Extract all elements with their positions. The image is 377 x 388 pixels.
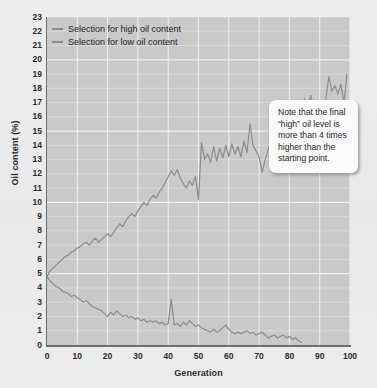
y-tick-label: 18 [18, 83, 42, 93]
x-tick-label: 90 [308, 351, 332, 361]
y-tick-label: 9 [18, 211, 42, 221]
x-axis-label: Generation [47, 368, 350, 378]
y-axis-label: Oil content (%) [10, 113, 20, 193]
x-tick-label: 80 [277, 351, 301, 361]
series-line-low [47, 277, 302, 343]
y-tick-label: 10 [18, 197, 42, 207]
y-tick-label: 20 [18, 54, 42, 64]
x-tick-label: 60 [217, 351, 241, 361]
y-tick-label: 8 [18, 225, 42, 235]
y-tick-label: 5 [18, 268, 42, 278]
y-tick-label: 3 [18, 297, 42, 307]
legend-item-low: Selection for low oil content [50, 35, 250, 48]
y-tick-label: 11 [18, 183, 42, 193]
x-tick-label: 40 [156, 351, 180, 361]
chart-figure: 01234567891011121314151617181920212223 0… [0, 0, 377, 388]
legend-label-low: Selection for low oil content [68, 37, 178, 47]
x-tick-label: 20 [96, 351, 120, 361]
x-tick-label: 100 [338, 351, 362, 361]
chart-legend: Selection for high oil content Selection… [50, 22, 250, 48]
y-tick-label: 2 [18, 311, 42, 321]
y-tick-label: 22 [18, 26, 42, 36]
y-tick-label: 13 [18, 154, 42, 164]
y-tick-label: 6 [18, 254, 42, 264]
series-canvas [47, 17, 350, 345]
legend-swatch-low-icon [52, 41, 63, 43]
y-tick-label: 21 [18, 40, 42, 50]
x-tick-label: 30 [126, 351, 150, 361]
plot-area [47, 17, 350, 345]
y-tick-label: 7 [18, 240, 42, 250]
x-tick-label: 70 [247, 351, 271, 361]
y-tick-label: 23 [18, 12, 42, 22]
x-axis-line [46, 345, 351, 347]
y-tick-label: 19 [18, 69, 42, 79]
y-tick-label: 4 [18, 282, 42, 292]
x-tick-label: 0 [35, 351, 59, 361]
y-tick-label: 15 [18, 126, 42, 136]
y-tick-label: 14 [18, 140, 42, 150]
y-tick-label: 1 [18, 325, 42, 335]
x-tick-label: 50 [187, 351, 211, 361]
gridlines [47, 17, 350, 345]
legend-item-high: Selection for high oil content [50, 22, 250, 35]
y-tick-label: 16 [18, 111, 42, 121]
annotation-callout: Note that the final “high” oil level is … [269, 100, 358, 173]
x-tick-label: 10 [65, 351, 89, 361]
legend-swatch-high-icon [52, 28, 63, 30]
legend-label-high: Selection for high oil content [68, 24, 181, 34]
y-tick-label: 0 [18, 340, 42, 350]
y-tick-label: 17 [18, 97, 42, 107]
y-tick-label: 12 [18, 168, 42, 178]
